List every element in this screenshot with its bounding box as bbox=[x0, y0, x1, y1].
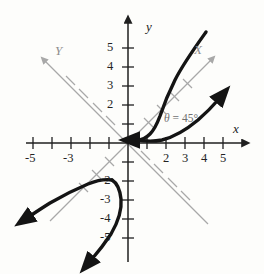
x-axis-label: x bbox=[233, 122, 239, 135]
y-tick-label-neg2: -2 bbox=[100, 174, 110, 187]
rotated-axes-parabola-figure: y x X Y θ = 45° 5 4 3 2 -2 -3 -4 -5 -5 -… bbox=[0, 0, 264, 274]
y-tick-label-4: 4 bbox=[107, 60, 113, 73]
y-tick-label-neg4: -4 bbox=[100, 212, 110, 225]
y-axis bbox=[122, 22, 134, 262]
plot-canvas bbox=[0, 0, 264, 274]
rotated-x-axis-label: X bbox=[194, 43, 202, 56]
rotated-y-axis-label: Y bbox=[55, 44, 62, 57]
y-tick-label-neg3: -3 bbox=[100, 193, 110, 206]
theta-value: = 45° bbox=[170, 112, 198, 124]
x-tick-label-neg5: -5 bbox=[25, 152, 35, 165]
y-axis-label: y bbox=[146, 20, 152, 33]
y-tick-label-2: 2 bbox=[107, 98, 113, 111]
x-tick-label-5: 5 bbox=[220, 152, 226, 165]
y-tick-label-neg5: -5 bbox=[100, 231, 110, 244]
x-axis bbox=[26, 137, 243, 149]
curve-branch-upper-right bbox=[137, 32, 218, 141]
y-tick-label-5: 5 bbox=[107, 41, 113, 54]
theta-angle-label: θ = 45° bbox=[164, 113, 198, 125]
y-tick-label-3: 3 bbox=[107, 79, 113, 92]
x-tick-label-neg3: -3 bbox=[63, 152, 73, 165]
x-tick-label-2: 2 bbox=[163, 152, 169, 165]
x-tick-label-3: 3 bbox=[182, 152, 188, 165]
x-tick-label-4: 4 bbox=[201, 152, 207, 165]
